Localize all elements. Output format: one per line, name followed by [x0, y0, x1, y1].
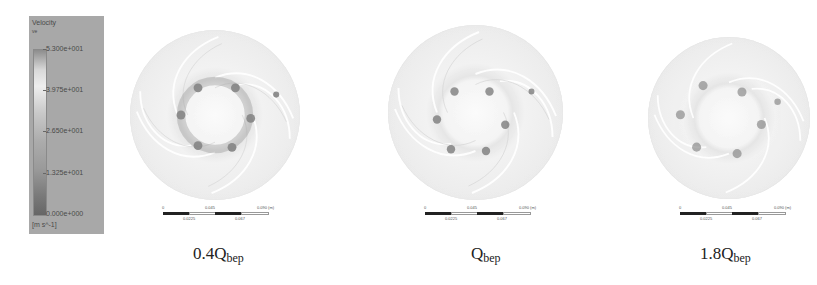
scale-sublabel-1: 0.0225	[445, 216, 457, 221]
scale-seg-black-2	[215, 212, 241, 215]
legend-tick-4: 1.325e+001	[46, 169, 83, 177]
scale-seg-white-1	[451, 212, 478, 215]
scale-seg-white-1	[189, 212, 216, 215]
legend-tick-3: 2.650e+001	[46, 127, 83, 135]
velocity-field-plot-qbep	[388, 25, 563, 200]
scale-label-mid: 0.045	[467, 205, 477, 210]
scale-label-0: 0	[162, 205, 164, 210]
scale-seg-white-2	[758, 212, 786, 215]
velocity-field-plot-0.4qbep	[130, 30, 300, 200]
velocity-field-plot-1.8qbep	[648, 37, 810, 199]
legend-tick-max: 5.300e+001	[46, 45, 83, 53]
legend-unit: [m s^-1]	[32, 221, 57, 228]
scale-seg-black-1	[680, 212, 706, 215]
scale-sublabel-2: 0.067	[235, 216, 245, 221]
panel-caption-qbep: Qbep	[471, 244, 501, 266]
scale-label-0: 0	[424, 205, 426, 210]
scale-seg-black-1	[425, 212, 451, 215]
scale-bar-panel-2: 0 0.045 0.090 (m) 0.0225 0.067	[425, 205, 535, 225]
scale-sublabel-2: 0.067	[752, 216, 762, 221]
legend-tick-min: 0.000e+000	[46, 210, 83, 218]
legend-tick-2: 3.975e+001	[46, 86, 83, 94]
scale-label-0: 0	[679, 205, 681, 210]
scale-bar-panel-3: 0 0.045 0.090 (m) 0.0225 0.067	[680, 205, 790, 225]
panel-caption-1.8qbep: 1.8Qbep	[700, 244, 751, 266]
scale-label-end: 0.090 (m)	[774, 205, 791, 210]
scale-seg-white-1	[706, 212, 733, 215]
scale-sublabel-2: 0.067	[497, 216, 507, 221]
scale-bar-panel-1: 0 0.045 0.090 (m) 0.0225 0.067	[163, 205, 273, 225]
impeller-streamlines	[388, 25, 563, 200]
panel-caption-0.4qbep: 0.4Qbep	[193, 244, 244, 266]
scale-seg-black-2	[477, 212, 503, 215]
legend-title: Velocity	[32, 19, 56, 27]
scale-seg-white-2	[241, 212, 269, 215]
colorbar-gradient	[33, 49, 47, 216]
scale-label-end: 0.090 (m)	[519, 205, 536, 210]
scale-label-mid: 0.045	[722, 205, 732, 210]
velocity-colorbar-legend: Velocity ve 5.300e+001 3.975e+001 2.650e…	[29, 16, 104, 234]
scale-seg-black-2	[732, 212, 758, 215]
scale-label-end: 0.090 (m)	[257, 205, 274, 210]
legend-variable: ve	[32, 28, 37, 34]
scale-sublabel-1: 0.0225	[700, 216, 712, 221]
scale-label-mid: 0.045	[205, 205, 215, 210]
impeller-streamlines	[648, 37, 810, 199]
scale-seg-white-2	[503, 212, 531, 215]
impeller-streamlines	[130, 30, 300, 200]
scale-sublabel-1: 0.0225	[183, 216, 195, 221]
scale-seg-black-1	[163, 212, 189, 215]
